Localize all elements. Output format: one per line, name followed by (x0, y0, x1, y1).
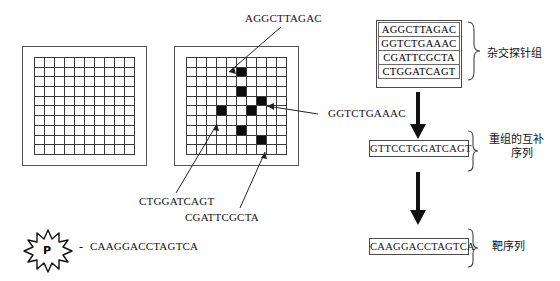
array-spot-empty (187, 136, 197, 146)
array-spot-empty (197, 77, 207, 87)
array-spot-empty (115, 68, 125, 78)
array-spot-empty (217, 136, 227, 146)
array-spot-empty (115, 126, 125, 136)
array-spot-empty (257, 116, 267, 126)
array-spot-empty (115, 136, 125, 146)
array-spot-empty (227, 126, 237, 136)
array-spot-empty (85, 145, 95, 155)
array-spot-empty (65, 136, 75, 146)
array-spot-empty (217, 116, 227, 126)
array-spot-empty (267, 136, 277, 146)
array-spot-empty (95, 97, 105, 107)
array-spot-empty (45, 145, 55, 155)
array-spot-empty (105, 68, 115, 78)
array-spot-empty (105, 136, 115, 146)
array-spot-empty (45, 136, 55, 146)
array-spot-empty (197, 145, 207, 155)
array-spot-empty (277, 126, 287, 136)
array-spot-filled (217, 106, 227, 116)
phosphate-label-p: P (43, 244, 51, 257)
array-spot-empty (237, 145, 247, 155)
array-spot-empty (247, 116, 257, 126)
array-spot-empty (267, 87, 277, 97)
array-spot-filled (257, 97, 267, 107)
array-spot-empty (247, 87, 257, 97)
array-spot-empty (75, 77, 85, 87)
array-spot-empty (197, 136, 207, 146)
array-spot-empty (85, 126, 95, 136)
array-spot-empty (85, 68, 95, 78)
recombined-sequence-label-line1: 重组的互补 (489, 133, 544, 147)
array-spot-empty (277, 145, 287, 155)
array-spot-empty (237, 58, 247, 68)
callout-bottom-left-sequence: CTGGATCAGT (139, 195, 214, 207)
array-spot-empty (197, 116, 207, 126)
hybridized-microarray-grid (186, 57, 287, 155)
array-spot-filled (257, 136, 267, 146)
array-spot-empty (237, 106, 247, 116)
array-spot-empty (207, 68, 217, 78)
array-spot-empty (247, 145, 257, 155)
array-spot-empty (227, 116, 237, 126)
array-spot-empty (207, 58, 217, 68)
array-spot-empty (207, 145, 217, 155)
array-spot-empty (35, 58, 45, 68)
array-spot-empty (35, 106, 45, 116)
array-spot-empty (125, 87, 135, 97)
target-sequence-label: 靶序列 (492, 240, 525, 254)
array-spot-empty (277, 106, 287, 116)
probe-sequence-row: CGATTCGCTA (378, 50, 460, 65)
array-spot-empty (217, 87, 227, 97)
array-spot-empty (125, 106, 135, 116)
array-spot-empty (125, 97, 135, 107)
array-spot-empty (65, 106, 75, 116)
array-spot-empty (65, 126, 75, 136)
recombined-sequence-box: GTTCCTGGATCAGT (369, 140, 469, 157)
array-spot-empty (217, 77, 227, 87)
array-spot-empty (55, 145, 65, 155)
array-spot-empty (187, 58, 197, 68)
array-spot-empty (115, 145, 125, 155)
array-spot-empty (65, 77, 75, 87)
array-spot-empty (267, 106, 277, 116)
array-spot-empty (85, 87, 95, 97)
array-spot-empty (247, 68, 257, 78)
array-spot-empty (95, 136, 105, 146)
array-spot-empty (247, 77, 257, 87)
array-spot-empty (55, 106, 65, 116)
array-spot-empty (95, 58, 105, 68)
array-spot-empty (227, 58, 237, 68)
array-spot-empty (267, 58, 277, 68)
array-spot-empty (65, 145, 75, 155)
array-spot-empty (207, 126, 217, 136)
array-spot-empty (115, 106, 125, 116)
array-spot-empty (237, 116, 247, 126)
array-spot-empty (55, 97, 65, 107)
array-spot-empty (125, 126, 135, 136)
array-spot-empty (227, 68, 237, 78)
array-spot-empty (85, 97, 95, 107)
array-spot-empty (227, 136, 237, 146)
array-spot-empty (237, 97, 247, 107)
array-spot-empty (277, 77, 287, 87)
array-spot-empty (277, 116, 287, 126)
array-spot-empty (45, 106, 55, 116)
array-spot-empty (35, 68, 45, 78)
array-spot-empty (267, 68, 277, 78)
array-spot-empty (207, 106, 217, 116)
array-spot-empty (257, 77, 267, 87)
array-spot-empty (35, 145, 45, 155)
array-spot-empty (35, 126, 45, 136)
target-sequence-box: CAAGGACCTAGTCA (369, 238, 469, 255)
array-spot-empty (35, 136, 45, 146)
array-spot-empty (65, 97, 75, 107)
array-spot-empty (247, 97, 257, 107)
array-spot-empty (75, 136, 85, 146)
array-spot-empty (277, 68, 287, 78)
array-spot-empty (45, 126, 55, 136)
array-spot-empty (95, 126, 105, 136)
array-spot-empty (45, 87, 55, 97)
array-spot-empty (45, 68, 55, 78)
array-spot-empty (55, 87, 65, 97)
array-spot-empty (197, 106, 207, 116)
